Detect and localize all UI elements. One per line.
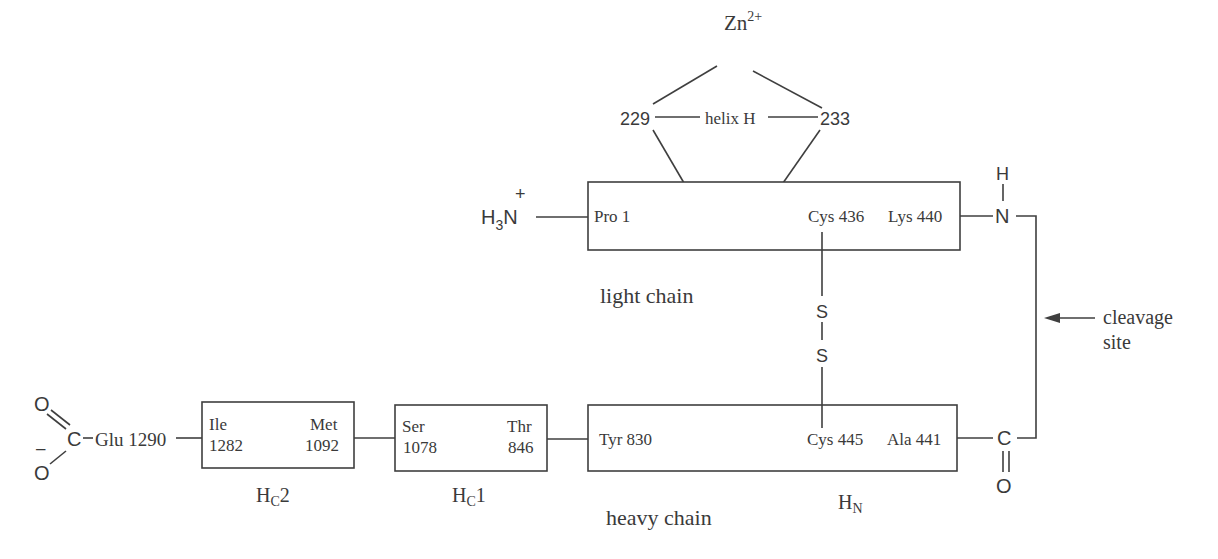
cleavage-site: cleavage site xyxy=(1044,306,1173,353)
amide-hydrogen: H xyxy=(996,164,1009,184)
disulfide-bridge: S S xyxy=(816,232,828,428)
zinc-binding-site: Zn2+ 229 helix H 233 xyxy=(620,9,850,183)
hc2-left-top: Ile xyxy=(209,415,227,434)
botulinum-toxin-domain-diagram: Zn2+ 229 helix H 233 + H3N Pro 1 Cys 436… xyxy=(0,0,1218,559)
hn-end: Ala 441 xyxy=(887,430,941,449)
zinc-bond-left xyxy=(653,66,717,104)
carboxyl-o-double: O xyxy=(34,393,50,415)
carboxyl-c: C xyxy=(67,428,81,450)
hc2-left-bottom: 1282 xyxy=(209,436,243,455)
c-terminal-residue: Glu 1290 xyxy=(95,429,166,450)
light-chain-start: Pro 1 xyxy=(594,207,630,226)
heavy-chain-label: heavy chain xyxy=(606,505,712,530)
heavy-chain-hc2: Ile 1282 Met 1092 HC2 xyxy=(202,402,395,509)
hc1-label: HC1 xyxy=(452,484,486,509)
cleavage-arrow-icon xyxy=(1044,313,1060,323)
hc2-right-bottom: 1092 xyxy=(305,436,339,455)
heavy-chain-hn: Tyr 830 Cys 445 Ala 441 HN heavy chain xyxy=(588,405,957,530)
carbonyl-o: O xyxy=(996,475,1012,497)
light-chain: Pro 1 Cys 436 Lys 440 light chain xyxy=(588,182,960,308)
hc2-right-top: Met xyxy=(310,415,338,434)
residue-229: 229 xyxy=(620,109,650,129)
helix-label: helix H xyxy=(705,109,756,128)
sulfur-2: S xyxy=(816,346,828,366)
amide-nitrogen: H N xyxy=(960,164,1036,438)
n-terminus: + H3N xyxy=(481,184,588,233)
residue-233: 233 xyxy=(820,109,850,129)
helix-to-chain-right xyxy=(783,130,820,183)
carbonyl-c: C xyxy=(997,427,1011,449)
light-chain-label: light chain xyxy=(600,283,693,308)
zinc-label: Zn2+ xyxy=(724,9,762,35)
carboxyl-double-bond-2 xyxy=(51,410,70,425)
helix-to-chain-left xyxy=(653,130,684,183)
hc1-left-bottom: 1078 xyxy=(403,438,437,457)
hn-label: HN xyxy=(838,491,863,516)
light-chain-cys: Cys 436 xyxy=(808,207,864,226)
hc1-right-bottom: 846 xyxy=(508,438,534,457)
carboxyl-charge: – xyxy=(36,439,46,458)
hc2-label: HC2 xyxy=(256,484,290,509)
n-terminus-charge: + xyxy=(515,184,526,204)
hc1-right-top: Thr xyxy=(507,417,532,436)
hn-cys: Cys 445 xyxy=(807,430,863,449)
carbonyl: C O xyxy=(957,427,1012,497)
hc1-left-top: Ser xyxy=(402,417,425,436)
hc2-box xyxy=(202,402,354,468)
carboxyl-o-single: O xyxy=(34,462,50,484)
carboxyl-single-bond xyxy=(50,451,66,464)
hn-start: Tyr 830 xyxy=(599,430,652,449)
zinc-bond-right xyxy=(753,71,822,108)
light-chain-end: Lys 440 xyxy=(888,207,942,226)
cleavage-label-line1: cleavage xyxy=(1103,306,1173,329)
carboxyl-double-bond-1 xyxy=(47,414,66,429)
heavy-chain-hc1: Ser 1078 Thr 846 HC1 xyxy=(395,405,588,509)
amide-n: N xyxy=(995,205,1009,227)
c-terminus: Glu 1290 C O – O xyxy=(34,393,202,484)
n-terminus-label: H3N xyxy=(481,206,518,233)
sulfur-1: S xyxy=(816,302,828,322)
cleavage-label-line2: site xyxy=(1103,331,1131,353)
peptide-bond-bracket xyxy=(1016,216,1036,438)
